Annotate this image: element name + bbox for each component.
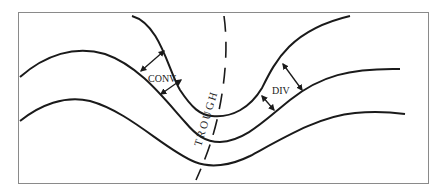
div-label: DIV [272,85,291,96]
trough-diagram: CONV DIV TROUGH [0,0,445,192]
height-contour-upper [132,16,350,116]
conv-label: CONV [148,73,177,84]
conv-arrow-upper [141,51,164,71]
diagram-frame [19,13,429,184]
div-arrow-lower [262,96,274,110]
